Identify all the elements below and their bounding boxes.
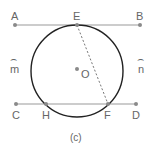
arc-label-n: n (138, 63, 144, 75)
point-a (13, 23, 17, 27)
point-c (14, 102, 18, 106)
point-b (138, 23, 142, 27)
label-h: H (42, 109, 50, 121)
label-o: O (81, 68, 90, 80)
figure-caption: (c) (70, 132, 82, 143)
geometry-diagram: A E B O C H F D ⌢ m ⌢ n (c) (0, 0, 155, 147)
point-f (106, 102, 110, 106)
label-c: C (12, 109, 20, 121)
segment-ef-dashed (77, 25, 108, 104)
label-a: A (11, 10, 19, 22)
arc-label-m: m (10, 63, 19, 75)
label-d: D (132, 109, 140, 121)
label-b: B (136, 10, 143, 22)
label-f: F (104, 109, 111, 121)
point-e (75, 23, 79, 27)
point-o (75, 67, 79, 71)
label-e: E (73, 10, 80, 22)
point-h (44, 102, 48, 106)
point-d (134, 102, 138, 106)
